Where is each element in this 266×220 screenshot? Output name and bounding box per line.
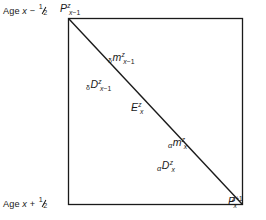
- label-subscript: x: [184, 143, 187, 150]
- age-caption-top: Age x − 1 2: [3, 5, 49, 16]
- label-prefix-alpha: α: [157, 164, 161, 173]
- label-subscript-suffix: −1: [73, 9, 81, 16]
- label-subscript: x: [234, 202, 237, 209]
- label-base: E: [131, 101, 138, 113]
- label-population-end: Pxz+1: [228, 196, 243, 210]
- label-base: D: [162, 159, 170, 171]
- label-superscript: z: [170, 159, 173, 166]
- label-base: m: [112, 51, 121, 63]
- age-caption-bottom-operator: +: [30, 199, 35, 209]
- label-exposure-center: Ezx: [131, 102, 144, 116]
- age-caption-top-variable: x: [22, 6, 27, 16]
- fraction-denominator: 2: [43, 201, 47, 210]
- one-half-fraction-top: 1 2: [39, 5, 49, 15]
- label-alpha-migration-lower: αmzx: [168, 137, 187, 151]
- lexis-diagram-figure: Age x − 1 2 Age x + 1 2 Pzx−1 δmzx−1 δDz…: [0, 0, 266, 220]
- label-prefix-alpha: α: [168, 141, 172, 150]
- one-half-fraction-bottom: 1 2: [39, 198, 49, 208]
- age-caption-bottom: Age x + 1 2: [3, 198, 49, 209]
- cohort-diagonal-line: [69, 19, 242, 204]
- fraction-numerator: 1: [39, 2, 43, 11]
- label-alpha-deaths-lower: αDzx: [157, 160, 175, 174]
- label-delta-migration-upper: δmzx−1: [108, 52, 134, 66]
- label-subscript: x: [140, 108, 143, 115]
- label-subscript-suffix: −1: [127, 58, 135, 65]
- label-base: D: [90, 78, 98, 90]
- age-caption-top-operator: −: [30, 6, 35, 16]
- label-delta-deaths-upper: δDzx−1: [86, 79, 111, 93]
- label-base: m: [173, 136, 182, 148]
- label-superscript: z: [182, 136, 185, 143]
- label-superscript: z: [138, 101, 141, 108]
- age-caption-bottom-variable: x: [22, 199, 27, 209]
- label-superscript-suffix: +1: [235, 195, 243, 202]
- label-superscript: z: [67, 2, 70, 9]
- age-caption-top-prefix: Age: [3, 6, 20, 16]
- label-base: P: [60, 2, 67, 14]
- fraction-numerator: 1: [39, 195, 43, 204]
- label-superscript: z: [121, 51, 124, 58]
- age-caption-bottom-prefix: Age: [3, 199, 20, 209]
- fraction-denominator: 2: [43, 8, 47, 17]
- label-subscript: x: [171, 166, 174, 173]
- label-population-start: Pzx−1: [60, 3, 80, 17]
- label-subscript-suffix: −1: [104, 85, 112, 92]
- label-superscript: z: [98, 78, 101, 85]
